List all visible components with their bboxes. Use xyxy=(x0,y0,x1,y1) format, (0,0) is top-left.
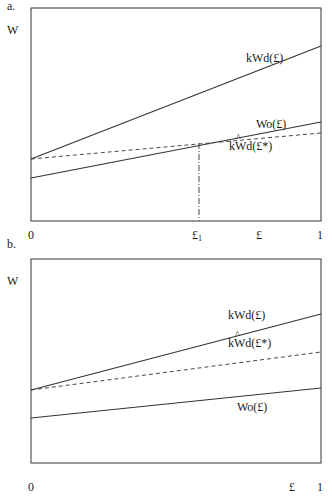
panel-a-kwd-label: kWd(£) xyxy=(246,52,283,64)
panel-b-kwd-hat-label: kWd(£*) xyxy=(228,337,271,349)
panel-b-kwd-line xyxy=(31,314,321,390)
diagram-canvas xyxy=(0,0,332,501)
panel-a-one-tick: 1 xyxy=(317,229,323,241)
panel-a-frame xyxy=(31,8,321,221)
panel-b-pound-tick: £ xyxy=(289,481,295,493)
panel-b-wo-label: Wo(£) xyxy=(237,401,267,413)
panel-b-kwd-label: kWd(£) xyxy=(228,309,265,321)
panel-a-pound1-tick: £1 xyxy=(192,229,202,243)
panel-b-y-axis-label: W xyxy=(7,275,18,287)
panel-b-one-tick: 1 xyxy=(317,481,323,493)
panel-b-kwd-hat-line xyxy=(31,352,321,390)
panel-b-origin-tick: 0 xyxy=(28,481,34,493)
panel-b-wo-line xyxy=(31,388,321,418)
panel-a-pound-tick: £ xyxy=(256,229,262,241)
panel-a-wo-label: Wo(£) xyxy=(256,118,286,130)
panel-a-origin-tick: 0 xyxy=(28,229,34,241)
panel-a-kwd-hat-line xyxy=(31,133,321,159)
panel-a-y-axis-label: W xyxy=(7,24,18,36)
panel-b-frame xyxy=(31,259,321,463)
panel-a-kwd-hat-label: kWd(£*) xyxy=(229,140,272,152)
panel-b-label: b. xyxy=(7,238,16,250)
